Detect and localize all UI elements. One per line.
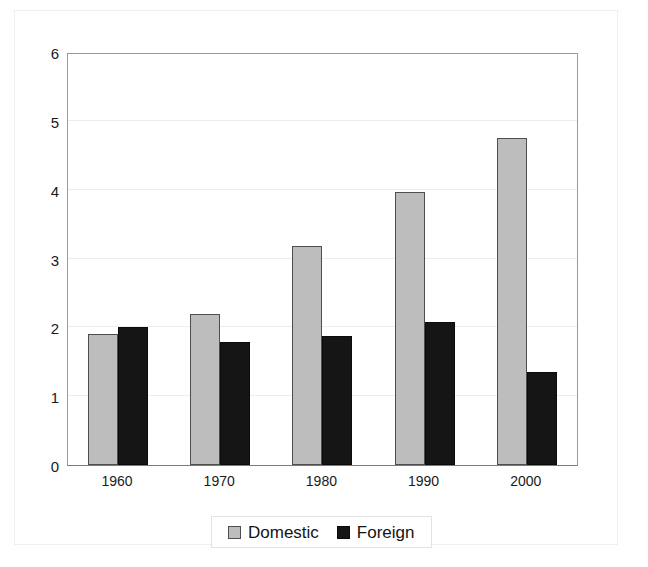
bar-domestic-1960 xyxy=(88,334,118,465)
x-axis-tick-label: 2000 xyxy=(510,473,541,489)
y-axis-tick-label: 0 xyxy=(25,459,59,474)
legend-label: Foreign xyxy=(357,524,415,541)
y-axis-tick-label: 3 xyxy=(25,252,59,267)
y-axis-tick-label: 2 xyxy=(25,321,59,336)
chart-legend: DomesticForeign xyxy=(211,516,432,548)
legend-entry-domestic: Domestic xyxy=(228,524,319,541)
bar-domestic-2000 xyxy=(497,138,527,465)
x-axis-tick-label: 1980 xyxy=(306,473,337,489)
legend-label: Domestic xyxy=(248,524,319,541)
y-axis-tick-label: 1 xyxy=(25,390,59,405)
x-axis-tick-labels: 19601970198019902000 xyxy=(67,473,578,497)
x-axis-tick-label: 1990 xyxy=(408,473,439,489)
bar-domestic-1990 xyxy=(395,192,425,465)
bar-foreign-1980 xyxy=(322,336,352,465)
x-axis-tick-label: 1960 xyxy=(101,473,132,489)
black-square-swatch xyxy=(337,526,350,539)
bar-foreign-1970 xyxy=(220,342,250,465)
bars-layer xyxy=(68,54,577,465)
y-axis-tick-labels: 0123456 xyxy=(15,53,59,466)
plot-area xyxy=(67,53,578,466)
bar-foreign-2000 xyxy=(527,372,557,465)
y-axis-tick-label: 6 xyxy=(25,46,59,61)
x-axis-tick-label: 1970 xyxy=(204,473,235,489)
chart-frame: 0123456 19601970198019902000 DomesticFor… xyxy=(14,10,618,545)
y-axis-tick-label: 5 xyxy=(25,114,59,129)
bar-foreign-1990 xyxy=(425,322,455,465)
gray-square-swatch xyxy=(228,526,241,539)
legend-entry-foreign: Foreign xyxy=(337,524,415,541)
bar-foreign-1960 xyxy=(118,327,148,465)
y-axis-tick-label: 4 xyxy=(25,183,59,198)
bar-domestic-1970 xyxy=(190,314,220,465)
bar-domestic-1980 xyxy=(292,246,322,465)
